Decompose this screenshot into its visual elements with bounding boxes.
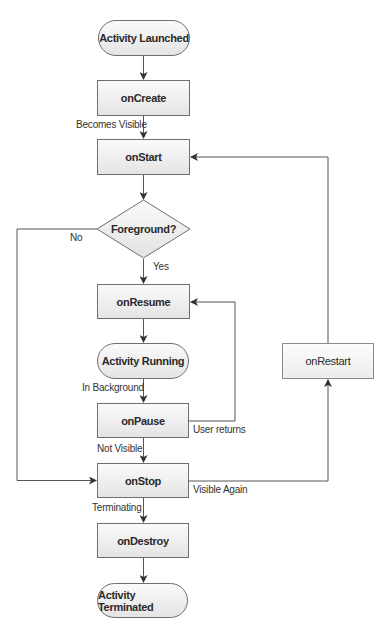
node-label: onResume (117, 296, 171, 308)
edge-label-in-background: In Background (82, 382, 144, 393)
edge-label-becomes-visible: Becomes Visible (76, 119, 147, 130)
node-label: onStart (125, 151, 161, 163)
connector-layer (0, 0, 388, 630)
arrow-onrestart-to-onstart (191, 157, 328, 343)
node-label: Activity Terminated (98, 589, 187, 613)
node-foreground-decision: Foreground? (97, 220, 190, 238)
edge-label-no: No (70, 232, 82, 243)
node-onstart: onStart (97, 139, 190, 175)
node-onresume: onResume (97, 284, 190, 319)
node-oncreate: onCreate (97, 80, 190, 116)
node-label: onCreate (121, 92, 166, 104)
node-ondestroy: onDestroy (97, 523, 189, 558)
edge-label-not-visible: Not Visible (97, 443, 142, 454)
edge-label-visible-again: Visible Again (193, 484, 247, 495)
arrow-userreturns-to-onresume (189, 302, 235, 421)
node-label: Activity Launched (99, 32, 189, 44)
node-onpause: onPause (97, 403, 189, 438)
node-label: Foreground? (111, 223, 176, 235)
node-label: onPause (121, 415, 165, 427)
arrow-no-to-onstop (17, 229, 97, 481)
node-label: onStop (125, 475, 161, 487)
node-label: onRestart (306, 355, 351, 367)
node-onrestart: onRestart (282, 343, 374, 379)
edge-label-terminating: Terminating (92, 502, 142, 513)
edge-label-yes: Yes (153, 261, 169, 272)
node-activity-running: Activity Running (97, 343, 189, 379)
node-onstop: onStop (97, 463, 189, 498)
node-activity-terminated: Activity Terminated (97, 583, 188, 618)
node-label: onDestroy (117, 535, 169, 547)
node-activity-launched: Activity Launched (98, 20, 190, 56)
edge-label-user-returns: User returns (193, 424, 246, 435)
node-label: Activity Running (102, 355, 185, 367)
